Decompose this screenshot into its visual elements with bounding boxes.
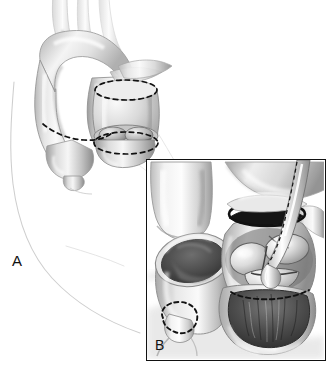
- divided-ascending-aorta: [151, 162, 213, 240]
- panel-b-illustration: [147, 160, 324, 359]
- panel-b-inset-frame: [146, 159, 326, 361]
- panel-label-a: A: [12, 253, 23, 268]
- panel-label-b: B: [155, 338, 165, 352]
- right-coronary-artery: [63, 176, 84, 191]
- figure-root: A: [0, 0, 333, 370]
